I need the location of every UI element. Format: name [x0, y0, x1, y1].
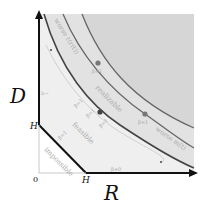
- beta-top-label: β=1: [92, 68, 102, 75]
- y-axis-label: D: [9, 84, 26, 108]
- y-tick-h: H: [29, 121, 38, 131]
- marker-dot-right: [160, 161, 162, 163]
- marker-dot: [50, 49, 52, 51]
- beta-zero-label: β=0: [111, 166, 121, 173]
- point-right: [142, 111, 147, 116]
- x-tick-h: H: [81, 175, 90, 185]
- x-axis-label: R: [103, 181, 119, 205]
- origin-label: 0: [33, 175, 38, 184]
- beta-right-label: β=1: [138, 119, 148, 126]
- point-lower: [97, 109, 102, 114]
- left-marker: b→: [41, 90, 48, 96]
- diagram: D R H H 0 impossible feasible realizable…: [0, 0, 204, 207]
- point-upper: [95, 60, 100, 65]
- rate-distortion-diagram: D R H H 0 impossible feasible realizable…: [0, 0, 204, 207]
